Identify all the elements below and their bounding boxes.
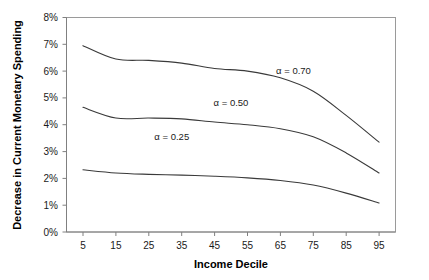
y-tick-label: 8% [44,12,59,23]
line-chart: 8% 7% 6% 5% 4% 3% 2% 1% 0% 5 15 [0,0,429,280]
x-tick-label: 45 [209,240,221,251]
series-label-alpha-070: α = 0.70 [276,65,311,76]
series-line-alpha-025 [83,170,379,203]
y-tick-label: 0% [44,227,59,238]
y-axis-ticks [63,18,67,233]
y-tick-label: 1% [44,200,59,211]
series-line-alpha-050 [83,107,379,173]
plot-area-frame [67,18,396,233]
y-tick-label: 2% [44,173,59,184]
x-axis-title: Income Decile [194,258,268,270]
series-line-alpha-070 [83,46,379,143]
y-tick-label: 5% [44,92,59,103]
y-axis-tick-labels: 8% 7% 6% 5% 4% 3% 2% 1% 0% [44,12,59,238]
x-tick-label: 85 [341,240,353,251]
x-tick-label: 5 [80,240,86,251]
x-axis-ticks [83,232,379,236]
chart-container: 8% 7% 6% 5% 4% 3% 2% 1% 0% 5 15 [0,0,429,280]
x-axis-tick-labels: 5 15 25 35 45 55 65 75 85 95 [80,240,385,251]
x-tick-label: 15 [110,240,122,251]
x-tick-label: 25 [143,240,155,251]
x-tick-label: 35 [176,240,188,251]
x-tick-label: 55 [242,240,254,251]
y-tick-label: 3% [44,146,59,157]
y-tick-label: 6% [44,66,59,77]
x-tick-label: 95 [374,240,386,251]
x-tick-label: 75 [308,240,320,251]
y-tick-label: 7% [44,39,59,50]
x-tick-label: 65 [275,240,287,251]
series-group [83,46,379,203]
series-label-alpha-050: α = 0.50 [214,97,249,108]
y-axis-title: Decrease in Current Monetary Spending [11,20,23,230]
y-tick-label: 4% [44,119,59,130]
series-label-alpha-025: α = 0.25 [154,131,189,142]
